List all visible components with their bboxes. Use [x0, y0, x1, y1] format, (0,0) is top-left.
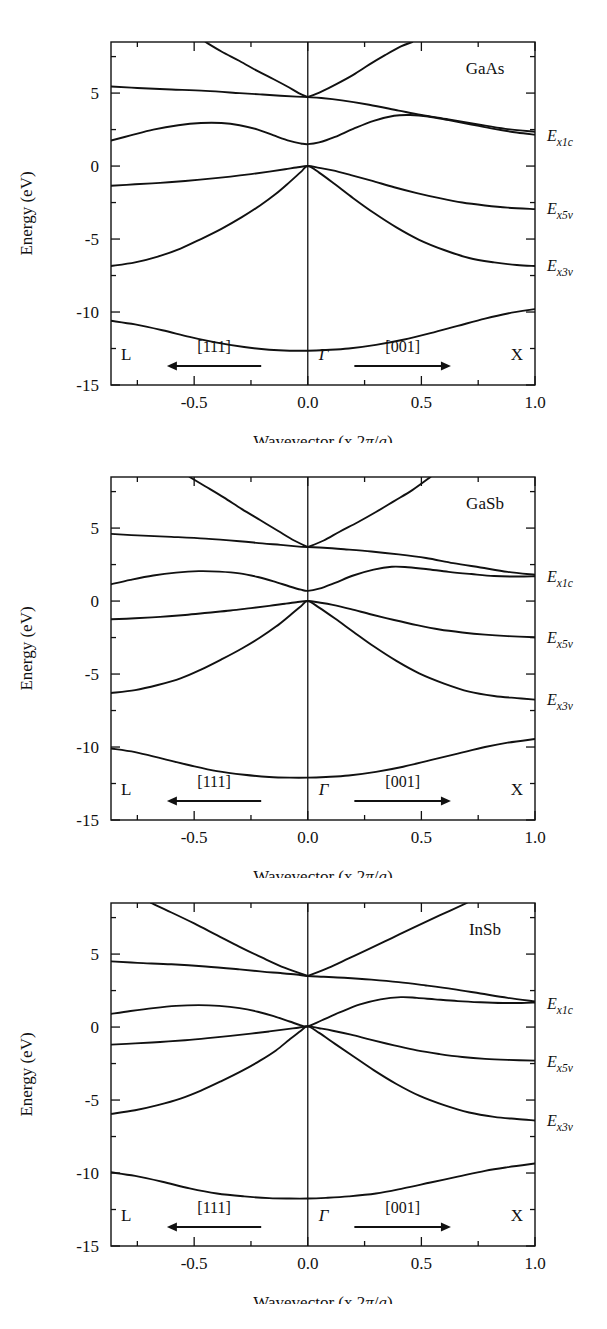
panel-plot-area: 50-5-10-15-0.50.00.51.0GaAsLΓX[111][001]… [0, 0, 607, 443]
plot-frame [111, 903, 535, 1246]
band-curve [308, 903, 467, 976]
direction-arrowhead-right [441, 1223, 451, 1232]
x-axis-tick-label: -0.5 [181, 1254, 208, 1273]
band-curve [111, 1164, 535, 1199]
x-axis-tick-label: -0.5 [181, 828, 208, 847]
symmetry-point-x: X [511, 345, 523, 364]
y-axis-tick-label: 5 [91, 519, 100, 538]
symmetry-point-gamma: Γ [318, 1206, 330, 1225]
band-structure-panel: 50-5-10-15-0.50.00.51.0InSbLΓX[111][001]… [0, 861, 607, 1304]
band-structure-panel: 50-5-10-15-0.50.00.51.0GaSbLΓX[111][001]… [0, 435, 607, 878]
band-label-ex5v: Ex5v [546, 200, 574, 221]
direction-arrowhead-right [441, 362, 451, 371]
band-curve [111, 567, 535, 591]
band-label-ex1c: Ex1c [546, 568, 573, 589]
band-curve [111, 115, 535, 144]
symmetry-point-gamma: Γ [318, 345, 330, 364]
x-axis-tick-label: 0.0 [297, 828, 318, 847]
symmetry-point-l: L [121, 780, 131, 799]
y-axis-tick-label: 5 [91, 84, 100, 103]
y-axis-tick-label: 0 [91, 157, 100, 176]
band-curve [111, 166, 535, 209]
symmetry-point-l: L [121, 345, 131, 364]
y-axis-tick-label: -10 [76, 738, 99, 757]
direction-arrowhead-right [441, 797, 451, 806]
band-label-ex3v: Ex3v [546, 257, 574, 278]
y-axis-tick-label: -15 [76, 1237, 99, 1256]
material-label: GaSb [466, 494, 504, 513]
direction-arrowhead-left [167, 1223, 177, 1232]
symmetry-point-l: L [121, 1206, 131, 1225]
band-label-ex5v: Ex5v [546, 1053, 574, 1074]
material-label: InSb [469, 920, 501, 939]
panel-plot-area: 50-5-10-15-0.50.00.51.0GaSbLΓX[111][001]… [0, 435, 607, 878]
y-axis-tick-label: -5 [85, 1091, 99, 1110]
symmetry-point-x: X [511, 1206, 523, 1225]
direction-label-111: [111] [197, 1199, 230, 1216]
y-axis-title: Energy (eV) [17, 171, 36, 255]
direction-label-111: [111] [197, 338, 230, 355]
y-axis-tick-label: -5 [85, 665, 99, 684]
x-axis-tick-label: 1.0 [524, 393, 545, 412]
symmetry-point-x: X [511, 780, 523, 799]
y-axis-title: Energy (eV) [17, 1032, 36, 1116]
band-curve [111, 601, 535, 637]
x-axis-tick-label: 0.5 [411, 393, 432, 412]
y-axis-title: Energy (eV) [17, 606, 36, 690]
y-axis-tick-label: -15 [76, 376, 99, 395]
band-curve [308, 477, 431, 547]
band-curve [206, 42, 308, 97]
plot-frame [111, 477, 535, 820]
band-label-ex5v: Ex5v [546, 629, 574, 650]
band-curve [111, 997, 535, 1027]
band-curve [111, 961, 535, 1001]
y-axis-tick-label: -10 [76, 303, 99, 322]
x-axis-tick-label: 1.0 [524, 828, 545, 847]
direction-label-111: [111] [197, 773, 230, 790]
band-curve [308, 42, 413, 97]
y-axis-tick-label: -15 [76, 811, 99, 830]
band-curve [111, 739, 535, 778]
material-label: GaAs [466, 59, 505, 78]
y-axis-tick-label: 0 [91, 1018, 100, 1037]
y-axis-tick-label: -5 [85, 230, 99, 249]
y-axis-tick-label: 5 [91, 945, 100, 964]
band-structure-figure: 50-5-10-15-0.50.00.51.0GaAsLΓX[111][001]… [0, 0, 607, 1329]
direction-arrowhead-left [167, 362, 177, 371]
direction-label-001: [001] [385, 773, 420, 790]
symmetry-point-gamma: Γ [318, 780, 330, 799]
x-axis-title: Wavevector (x 2π/a) [253, 1293, 392, 1304]
y-axis-tick-label: 0 [91, 592, 100, 611]
panel-plot-area: 50-5-10-15-0.50.00.51.0InSbLΓX[111][001]… [0, 861, 607, 1304]
x-axis-tick-label: 0.0 [297, 1254, 318, 1273]
band-label-ex1c: Ex1c [546, 127, 573, 148]
band-label-ex1c: Ex1c [546, 995, 573, 1016]
x-axis-tick-label: -0.5 [181, 393, 208, 412]
x-axis-tick-label: 1.0 [524, 1254, 545, 1273]
x-axis-tick-label: 0.0 [297, 393, 318, 412]
y-axis-tick-label: -10 [76, 1164, 99, 1183]
band-structure-panel: 50-5-10-15-0.50.00.51.0GaAsLΓX[111][001]… [0, 0, 607, 443]
direction-label-001: [001] [385, 1199, 420, 1216]
band-curve [111, 1026, 535, 1060]
x-axis-tick-label: 0.5 [411, 828, 432, 847]
x-axis-tick-label: 0.5 [411, 1254, 432, 1273]
band-curve [190, 477, 308, 547]
band-label-ex3v: Ex3v [546, 691, 574, 712]
direction-arrowhead-left [167, 797, 177, 806]
band-label-ex3v: Ex3v [546, 1112, 574, 1133]
direction-label-001: [001] [385, 338, 420, 355]
